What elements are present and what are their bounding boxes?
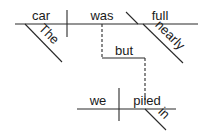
word-the: The bbox=[36, 21, 62, 47]
word-but: but bbox=[115, 43, 133, 58]
sentence-diagram: car was full but we piled The nearly in bbox=[0, 0, 206, 136]
predicate-slash bbox=[126, 12, 138, 24]
word-nearly: nearly bbox=[152, 17, 188, 53]
word-piled: piled bbox=[133, 93, 160, 108]
word-was: was bbox=[89, 8, 114, 23]
word-we: we bbox=[89, 93, 107, 108]
